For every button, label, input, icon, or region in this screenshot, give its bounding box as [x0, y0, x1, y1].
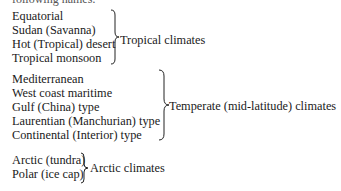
right-brace-icon — [110, 9, 120, 65]
list-item: Sudan (Savanna) — [12, 23, 96, 37]
group-label: Arctic climates — [90, 161, 165, 176]
partial-header-text: following names: — [12, 0, 96, 7]
list-item: Continental (Interior) type — [12, 128, 142, 142]
group-label: Tropical climates — [120, 33, 205, 48]
list-item: Laurentian (Manchurian) type — [12, 114, 160, 128]
list-item: Arctic (tundra) — [12, 153, 85, 167]
group-label: Temperate (mid-latitude) climates — [169, 99, 336, 114]
list-item: Hot (Tropical) desert — [12, 37, 115, 51]
list-item: Tropical monsoon — [12, 51, 101, 65]
list-item: Gulf (China) type — [12, 100, 99, 114]
list-item: Mediterranean — [12, 72, 84, 86]
list-item: West coast maritime — [12, 86, 112, 100]
list-item: Equatorial — [12, 9, 63, 23]
list-item: Polar (ice cap) — [12, 167, 84, 181]
right-brace-icon — [80, 152, 89, 184]
